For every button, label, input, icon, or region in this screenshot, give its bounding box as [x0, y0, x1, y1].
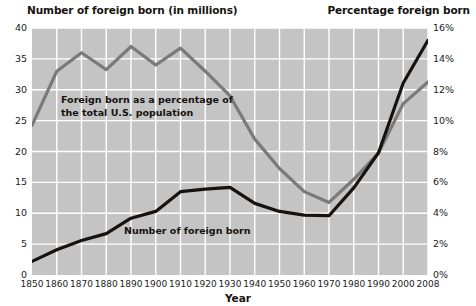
x-tick-1910: 1910 [168, 279, 194, 289]
x-tick-1990: 1990 [366, 279, 392, 289]
right-tick-2pct: 2% [433, 238, 473, 249]
right-tick-8pct: 8% [433, 146, 473, 157]
x-tick-2008: 2008 [415, 279, 441, 289]
x-tick-1970: 1970 [316, 279, 342, 289]
x-tick-1890: 1890 [118, 279, 144, 289]
x-tick-1870: 1870 [69, 279, 95, 289]
x-tick-1860: 1860 [44, 279, 70, 289]
x-tick-2000: 2000 [390, 279, 416, 289]
left-tick-10: 10 [0, 207, 27, 218]
x-tick-1920: 1920 [192, 279, 218, 289]
x-tick-1900: 1900 [143, 279, 169, 289]
left-tick-20: 20 [0, 146, 27, 157]
x-tick-1880: 1880 [93, 279, 119, 289]
left-tick-15: 15 [0, 176, 27, 187]
right-tick-16pct: 16% [433, 22, 473, 33]
x-tick-1930: 1930 [217, 279, 243, 289]
x-tick-1960: 1960 [291, 279, 317, 289]
right-tick-12pct: 12% [433, 84, 473, 95]
percentage-annotation-line-1: Foreign born as a percentage of [61, 94, 233, 107]
left-tick-25: 25 [0, 115, 27, 126]
foreign-born-chart: Number of foreign born (in millions) Per… [0, 0, 476, 306]
plot-area [32, 28, 428, 275]
right-tick-6pct: 6% [433, 176, 473, 187]
right-tick-10pct: 10% [433, 115, 473, 126]
right-axis-title: Percentage foreign born [327, 4, 470, 16]
left-tick-40: 40 [0, 22, 27, 33]
left-tick-35: 35 [0, 53, 27, 64]
number-series-annotation: Number of foreign born [124, 225, 251, 238]
x-axis-title: Year [0, 292, 476, 304]
percentage-annotation-line-2: the total U.S. population [61, 107, 233, 120]
left-tick-30: 30 [0, 84, 27, 95]
right-tick-14pct: 14% [433, 53, 473, 64]
x-tick-1950: 1950 [267, 279, 293, 289]
right-tick-4pct: 4% [433, 207, 473, 218]
plot-svg [32, 28, 428, 275]
percentage-series-annotation: Foreign born as a percentage of the tota… [61, 94, 233, 119]
left-tick-5: 5 [0, 238, 27, 249]
left-axis-title: Number of foreign born (in millions) [27, 4, 237, 16]
x-tick-1940: 1940 [242, 279, 268, 289]
x-tick-1850: 1850 [19, 279, 45, 289]
x-tick-1980: 1980 [341, 279, 367, 289]
